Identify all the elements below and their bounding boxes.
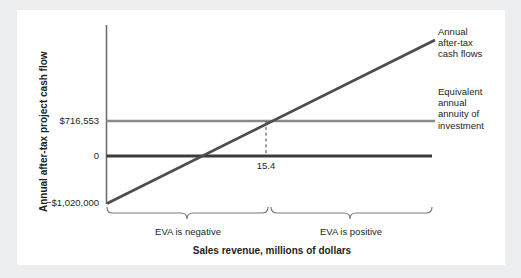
brace-eva-positive xyxy=(271,207,432,219)
brace-eva-negative xyxy=(107,207,268,219)
figure-root: Annual after-tax project cash flow $716,… xyxy=(0,0,521,278)
plot-area xyxy=(0,0,521,278)
